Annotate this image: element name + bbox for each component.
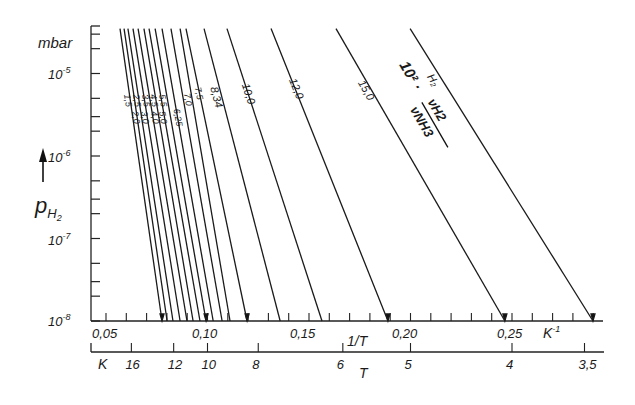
svg-text:H₂: H₂ xyxy=(425,72,442,89)
y-unit-label: mbar xyxy=(38,34,73,51)
svg-text:7,0: 7,0 xyxy=(182,92,194,106)
svg-text:0,10: 0,10 xyxy=(192,326,218,341)
svg-text:5,5: 5,5 xyxy=(157,93,169,108)
svg-text:10-6: 10-6 xyxy=(48,148,70,165)
isotherm-lines xyxy=(120,29,595,321)
chart: mbar 10-5 10-6 10-7 10-8 pH2 0,05 0,10 0… xyxy=(0,0,635,405)
svg-text:0,15: 0,15 xyxy=(290,326,316,341)
y-tick-labels: 10-5 10-6 10-7 10-8 xyxy=(48,65,71,329)
svg-text:10,0: 10,0 xyxy=(240,82,258,107)
x-unit-label: K-1 xyxy=(543,324,560,341)
svg-text:10-7: 10-7 xyxy=(48,231,71,248)
line-12-0 xyxy=(271,29,388,321)
line-1-5 xyxy=(120,29,162,321)
svg-text:15,0: 15,0 xyxy=(356,78,378,103)
svg-text:5: 5 xyxy=(405,357,413,372)
svg-text:12,0: 12,0 xyxy=(287,76,306,101)
svg-text:10² ·: 10² · xyxy=(396,58,426,93)
svg-text:10-5: 10-5 xyxy=(48,65,71,82)
x-axis-title: 1/T xyxy=(347,333,369,349)
x-tick-labels: 0,05 0,10 0,15 0,20 0,25 xyxy=(92,326,523,341)
line-2-5 xyxy=(128,29,173,321)
svg-text:16: 16 xyxy=(125,357,140,372)
svg-text:6,25: 6,25 xyxy=(172,108,185,128)
svg-text:0,05: 0,05 xyxy=(92,326,118,341)
y-axis-ticks xyxy=(91,34,100,321)
svg-text:8,34: 8,34 xyxy=(208,85,225,109)
svg-text:6: 6 xyxy=(337,357,345,372)
t-unit-label: K xyxy=(98,356,108,372)
t-axis-title: T xyxy=(359,365,369,381)
svg-text:3,5: 3,5 xyxy=(579,357,598,372)
svg-text:10: 10 xyxy=(202,357,217,372)
line-8-34 xyxy=(204,29,280,321)
svg-text:4: 4 xyxy=(506,357,513,372)
line-10-0 xyxy=(227,29,322,321)
svg-text:7,5: 7,5 xyxy=(193,86,206,101)
svg-text:0,20: 0,20 xyxy=(392,326,418,341)
line-7-5 xyxy=(186,29,247,321)
svg-text:12: 12 xyxy=(168,357,183,372)
y-axis-title: pH2 xyxy=(34,193,62,223)
svg-text:5,0: 5,0 xyxy=(157,110,169,124)
line-labels: 1,52,02,53,03,54,04,55,05,56,257,07,58,3… xyxy=(122,72,442,128)
line-6-25 xyxy=(171,29,222,321)
line-4-0 xyxy=(144,29,193,321)
line-H2 xyxy=(410,29,593,321)
svg-text:0,25: 0,25 xyxy=(497,326,523,341)
svg-text:8: 8 xyxy=(252,357,260,372)
ratio-annotation: 10² · νH2 νNH3 xyxy=(385,56,462,156)
svg-text:10-8: 10-8 xyxy=(48,312,70,329)
y-axis-arrow-icon xyxy=(39,148,47,182)
